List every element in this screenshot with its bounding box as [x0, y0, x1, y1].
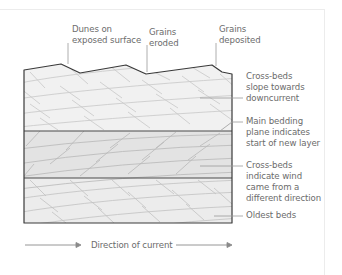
label-cross-beds-wind: Cross-beds indicate wind came from a dif…: [246, 160, 321, 204]
arrow-right-icon: [227, 243, 232, 248]
label-dunes-on-exposed-surface: Dunes on exposed surface: [72, 24, 141, 46]
direction-of-current-label: Direction of current: [91, 240, 173, 251]
middle-layer: [24, 131, 234, 178]
label-cross-beds-slope: Cross-beds slope towards downcurrent: [246, 71, 305, 104]
label-main-bedding-plane: Main bedding plane indicates start of ne…: [246, 116, 320, 149]
top-layer: [24, 60, 234, 131]
label-grains-eroded: Grains eroded: [149, 27, 179, 49]
arrow-right-icon: [76, 243, 81, 248]
label-grains-deposited: Grains deposited: [219, 24, 261, 46]
label-oldest-beds: Oldest beds: [246, 210, 296, 221]
